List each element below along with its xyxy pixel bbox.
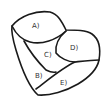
region-label-e: E) (60, 79, 67, 87)
region-label-c: C) (44, 51, 52, 59)
region-diagram: A) B) C) D) E) (0, 0, 106, 108)
region-label-a: A) (32, 22, 40, 30)
region-label-d: D) (70, 44, 78, 52)
region-label-b: B) (35, 72, 43, 80)
